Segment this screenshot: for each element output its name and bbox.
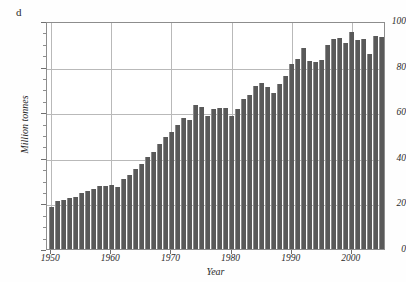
bar	[379, 37, 384, 249]
bar	[367, 54, 372, 249]
bar	[289, 64, 294, 249]
bar	[343, 43, 348, 249]
bar	[79, 193, 84, 249]
x-tick-label: 1990	[269, 253, 313, 263]
x-tick-label: 2000	[329, 253, 373, 263]
bar	[355, 40, 360, 249]
bar	[61, 200, 66, 249]
bar	[229, 116, 234, 249]
bar	[265, 87, 270, 249]
y-axis-title: Million tonnes	[19, 55, 30, 195]
bar	[175, 125, 180, 249]
bar	[67, 198, 72, 249]
bar	[145, 157, 150, 249]
x-tick-label: 1960	[88, 253, 132, 263]
bar	[319, 60, 324, 249]
bar	[349, 32, 354, 249]
bar	[205, 116, 210, 249]
bar	[259, 83, 264, 249]
bar	[277, 84, 282, 249]
bar	[55, 201, 60, 249]
bar-series	[47, 23, 384, 249]
bar	[91, 189, 96, 249]
bar	[157, 144, 162, 249]
x-tick-label: 1970	[148, 253, 192, 263]
bar	[193, 105, 198, 249]
bar	[301, 48, 306, 249]
bar	[373, 36, 378, 249]
bar	[115, 187, 120, 249]
panel-label: d	[16, 6, 22, 18]
bar	[247, 95, 252, 249]
bar	[181, 118, 186, 249]
bar	[331, 39, 336, 249]
bar	[139, 164, 144, 250]
bar	[169, 132, 174, 249]
bar	[325, 45, 330, 249]
bar	[151, 152, 156, 249]
bar	[235, 109, 240, 249]
plot-area	[46, 22, 385, 250]
bar	[103, 186, 108, 249]
bar	[307, 61, 312, 249]
bar	[73, 197, 78, 249]
x-tick-label: 1980	[209, 253, 253, 263]
bar	[127, 175, 132, 249]
bar	[109, 185, 114, 249]
bar	[241, 99, 246, 249]
bar	[199, 107, 204, 250]
bar	[217, 108, 222, 249]
bar	[283, 76, 288, 249]
bar	[313, 62, 318, 249]
bar	[211, 109, 216, 249]
bar	[133, 169, 138, 249]
bar	[187, 120, 192, 249]
x-tick-label: 1950	[28, 253, 72, 263]
bar	[295, 59, 300, 249]
bar	[253, 86, 258, 249]
bar	[121, 179, 126, 249]
bar	[97, 186, 102, 249]
bar	[361, 39, 366, 249]
bar	[337, 38, 342, 249]
bar	[163, 137, 168, 249]
bar	[49, 207, 54, 249]
y-tick-major	[41, 250, 46, 251]
x-axis-title: Year	[46, 266, 385, 277]
bar	[223, 108, 228, 249]
figure-panel-d: d Million tonnes Year 020406080100 19501…	[0, 0, 406, 282]
bar	[85, 191, 90, 249]
bar	[271, 93, 276, 249]
